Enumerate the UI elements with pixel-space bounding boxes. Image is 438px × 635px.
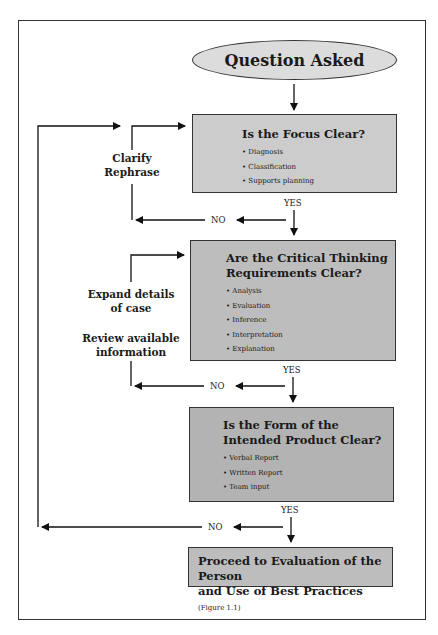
clarify-text: Clarify (100, 151, 164, 165)
yes-label-3: YES (281, 505, 299, 515)
criteria-list: Verbal Report Written Report Team input (223, 451, 393, 495)
figure-reference: (Figure 1.1) (198, 604, 240, 612)
decision-title-line2: Intended Product Clear? (223, 433, 393, 448)
review-text-1: Review available (80, 331, 182, 345)
list-item: Written Report (223, 466, 393, 481)
start-label: Question Asked (225, 51, 365, 70)
decision-title-line1: Is the Form of the (223, 418, 393, 433)
criteria-list: Analysis Evaluation Inference Interpreta… (226, 284, 395, 357)
end-node-proceed: Proceed to Evaluation of the Person and … (188, 547, 393, 587)
end-line1: Proceed to Evaluation of the Person (198, 554, 392, 584)
expand-text-1: Expand details (80, 287, 182, 301)
decision-focus-clear: Is the Focus Clear? Diagnosis Classifica… (192, 114, 397, 193)
end-line2-text: and Use of Best Practices (198, 584, 363, 598)
list-item: Inference (226, 313, 395, 328)
list-item: Interpretation (226, 328, 395, 343)
end-line2: and Use of Best Practices (Figure 1.1) (198, 584, 392, 616)
decision-title-line1: Are the Critical Thinking (226, 251, 395, 266)
review-info-label: Review available information (80, 331, 182, 359)
list-item: Team input (223, 480, 393, 495)
list-item: Evaluation (226, 299, 395, 314)
expand-details-label: Expand details of case (80, 287, 182, 315)
decision-product-form: Is the Form of the Intended Product Clea… (189, 407, 394, 502)
list-item: Verbal Report (223, 451, 393, 466)
rephrase-text: Rephrase (100, 165, 164, 179)
list-item: Diagnosis (242, 145, 396, 160)
list-item: Supports planning (242, 174, 396, 189)
list-item: Explanation (226, 342, 395, 357)
start-node-question-asked: Question Asked (192, 40, 397, 80)
yes-label-2: YES (283, 365, 301, 375)
clarify-label: Clarify Rephrase (100, 151, 164, 179)
no-label-3: NO (208, 522, 222, 532)
decision-title-line2: Requirements Clear? (226, 266, 395, 281)
decision-title: Is the Focus Clear? (242, 127, 396, 142)
criteria-list: Diagnosis Classification Supports planni… (242, 145, 396, 189)
no-label-1: NO (211, 215, 225, 225)
no-label-2: NO (210, 381, 224, 391)
yes-label-1: YES (284, 198, 302, 208)
decision-critical-thinking: Are the Critical Thinking Requirements C… (190, 240, 396, 361)
review-text-2: information (80, 345, 182, 359)
expand-text-2: of case (80, 301, 182, 315)
list-item: Classification (242, 160, 396, 175)
list-item: Analysis (226, 284, 395, 299)
